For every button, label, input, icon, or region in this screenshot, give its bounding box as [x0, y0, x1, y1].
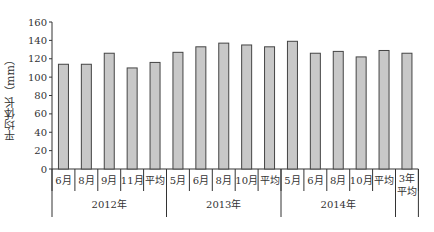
- group-label: 2012年: [92, 198, 127, 210]
- bar: [242, 45, 252, 169]
- y-tick-label: 20: [34, 145, 47, 156]
- x-tick-label: 平均: [397, 186, 417, 197]
- y-tick-label: 80: [34, 90, 47, 101]
- x-tick-label: 平均: [374, 175, 394, 186]
- y-tick-label: 160: [28, 17, 47, 28]
- bar: [310, 53, 320, 169]
- bar: [150, 62, 160, 169]
- y-tick-label: 100: [28, 72, 47, 83]
- bar: [402, 53, 412, 169]
- x-tick-label: 6月: [307, 175, 323, 186]
- x-tick-label: 10月: [235, 175, 258, 186]
- bar: [356, 57, 366, 169]
- x-tick-label: 9月: [101, 175, 117, 186]
- bar: [173, 52, 183, 169]
- y-tick-label: 60: [34, 108, 47, 119]
- x-tick-label: 5月: [284, 175, 300, 186]
- x-tick-label: 6月: [55, 175, 71, 186]
- y-axis-label: 平均体长（mm）: [3, 48, 23, 148]
- bar: [333, 51, 343, 169]
- bar: [127, 68, 137, 169]
- bar: [196, 47, 206, 169]
- bar: [265, 47, 275, 169]
- x-tick-label: 3年: [399, 172, 415, 184]
- bar-chart: 0204060801001201401606月8月9月11月平均5月6月8月10…: [0, 0, 434, 232]
- x-tick-label: 6月: [193, 175, 209, 186]
- group-label: 2013年: [206, 198, 241, 210]
- bar: [287, 41, 297, 169]
- group-label: 2014年: [321, 198, 356, 210]
- x-tick-label: 11月: [121, 175, 144, 186]
- x-tick-label: 10月: [350, 175, 373, 186]
- y-tick-label: 140: [28, 35, 47, 46]
- x-tick-label: 平均: [145, 175, 165, 186]
- x-tick-label: 8月: [216, 175, 232, 186]
- y-tick-label: 40: [34, 127, 47, 138]
- bar: [379, 50, 389, 169]
- x-tick-label: 5月: [170, 175, 186, 186]
- x-tick-label: 平均: [260, 175, 280, 186]
- bar: [81, 64, 91, 169]
- bar: [58, 64, 68, 169]
- bar: [219, 43, 229, 169]
- x-tick-label: 8月: [78, 175, 94, 186]
- y-tick-label: 0: [41, 164, 47, 175]
- bar: [104, 53, 114, 169]
- y-tick-label: 120: [28, 53, 47, 64]
- x-tick-label: 8月: [330, 175, 346, 186]
